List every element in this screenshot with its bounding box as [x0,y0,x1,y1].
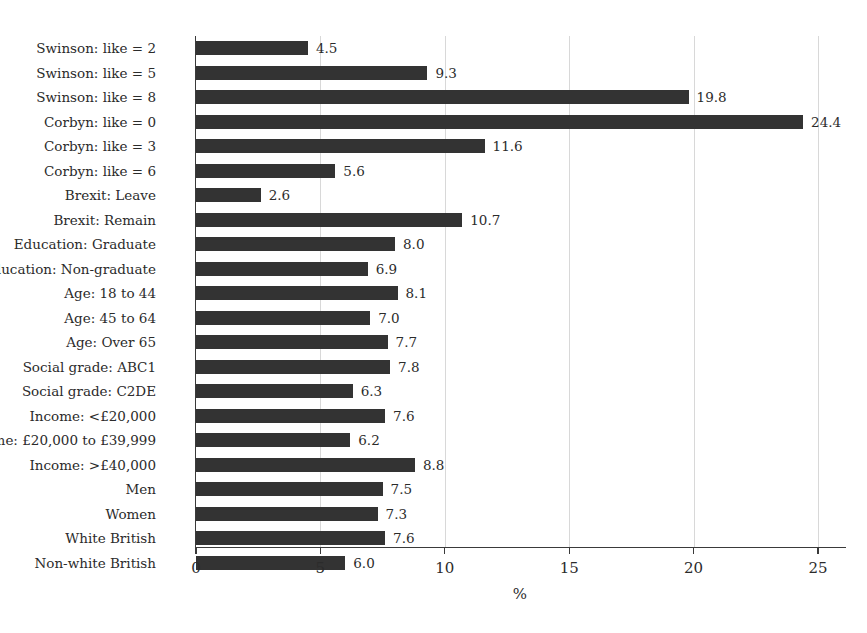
bar-value-label: 9.3 [435,65,456,81]
bar-value-label: 7.6 [393,408,414,424]
bar-value-label: 7.5 [391,481,412,497]
category-label: Social grade: ABC1 [23,359,156,375]
bar [196,433,350,447]
category-label: Non-white British [34,555,156,571]
bar [196,482,383,496]
bar-value-label: 7.8 [398,359,419,375]
bar-value-label: 6.9 [376,261,397,277]
category-label: Age: 45 to 64 [64,310,156,326]
bar-value-label: 6.0 [353,555,374,571]
bar-value-label: 19.8 [697,89,727,105]
bar [196,360,390,374]
bar-value-label: 6.3 [361,383,382,399]
x-axis-tick-label: 25 [808,559,827,577]
bar-value-label: 7.3 [386,506,407,522]
bar-value-label: 24.4 [811,114,841,130]
category-label: Education: Non-graduate [0,261,156,277]
bar-value-label: 7.0 [378,310,399,326]
bar-value-label: 8.1 [406,285,427,301]
bar-row: Income: <£20,0007.6 [196,404,846,429]
category-label: Corbyn: like = 3 [44,138,156,154]
category-label: Brexit: Leave [65,187,156,203]
x-axis-tick-label: 0 [191,559,201,577]
bar-row: Education: Non-graduate6.9 [196,257,846,282]
bar-row: Age: Over 657.7 [196,330,846,355]
bar-row: Age: 45 to 647.0 [196,306,846,331]
bar-row: Non-white British6.0 [196,551,846,576]
bar-row: Education: Graduate8.0 [196,232,846,257]
category-label: Education: Graduate [14,236,156,252]
category-label: White British [65,530,156,546]
bar-value-label: 8.8 [423,457,444,473]
bar-row: Corbyn: like = 024.4 [196,110,846,135]
bar [196,66,427,80]
bar [196,262,368,276]
bar [196,90,689,104]
bar-row: Age: 18 to 448.1 [196,281,846,306]
category-label: Corbyn: like = 6 [44,163,156,179]
bar-row: Corbyn: like = 311.6 [196,134,846,159]
category-label: Swinson: like = 8 [36,89,156,105]
bar [196,115,803,129]
x-axis-tick-label: 20 [684,559,703,577]
category-label: Social grade: C2DE [22,383,156,399]
bar-value-label: 6.2 [358,432,379,448]
bar-value-label: 10.7 [470,212,500,228]
bar-row: Women7.3 [196,502,846,527]
x-axis-tick [320,547,321,554]
bar-value-label: 5.6 [343,163,364,179]
bar [196,531,385,545]
bar-row: Swinson: like = 819.8 [196,85,846,110]
bar [196,458,415,472]
y-axis-line [195,36,196,547]
bar [196,164,335,178]
bar-value-label: 7.6 [393,530,414,546]
category-label: Income: <£20,000 [30,408,156,424]
bar [196,409,385,423]
bar-row: Swinson: like = 59.3 [196,61,846,86]
x-axis-tick [195,547,196,554]
category-label: Income: >£40,000 [30,457,156,473]
bar-value-label: 8.0 [403,236,424,252]
category-label: Women [105,506,156,522]
x-axis-tick-label: 15 [560,559,579,577]
bar-row: Income: >£40,0008.8 [196,453,846,478]
category-label: Income: £20,000 to £39,999 [0,432,156,448]
x-axis-tick [693,547,694,554]
x-axis-line [195,547,846,548]
x-axis-tick [569,547,570,554]
bar [196,507,378,521]
category-label: Swinson: like = 2 [36,40,156,56]
bar [196,237,395,251]
bar [196,384,353,398]
bar-row: Brexit: Remain10.7 [196,208,846,233]
bar-value-label: 2.6 [269,187,290,203]
bar-row: Social grade: C2DE6.3 [196,379,846,404]
bar [196,311,370,325]
x-axis-title: % [513,585,527,603]
category-label: Age: 18 to 44 [64,285,156,301]
plot-area: Swinson: like = 24.5Swinson: like = 59.3… [196,36,846,547]
bar-value-label: 4.5 [316,40,337,56]
x-axis-tick-label: 5 [316,559,326,577]
x-axis-tick-label: 10 [435,559,454,577]
bar-value-label: 7.7 [396,334,417,350]
bar-row: Brexit: Leave2.6 [196,183,846,208]
category-label: Swinson: like = 5 [36,65,156,81]
bar-row: Income: £20,000 to £39,9996.2 [196,428,846,453]
category-label: Brexit: Remain [53,212,156,228]
bar [196,41,308,55]
bar-chart-figure: Swinson: like = 24.5Swinson: like = 59.3… [0,0,867,633]
bar-row: Social grade: ABC17.8 [196,355,846,380]
bar [196,286,398,300]
bar-value-label: 11.6 [493,138,523,154]
category-label: Corbyn: like = 0 [44,114,156,130]
bar-row: Men7.5 [196,477,846,502]
bar-row: Swinson: like = 24.5 [196,36,846,61]
bar-row: Corbyn: like = 65.6 [196,159,846,184]
category-label: Men [125,481,156,497]
bar [196,213,462,227]
bar [196,139,485,153]
x-axis-tick [444,547,445,554]
x-axis-tick [817,547,818,554]
